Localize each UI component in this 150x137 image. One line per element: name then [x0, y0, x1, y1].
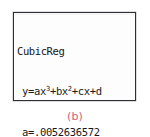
- model-suffix: +cx+d: [72, 85, 102, 97]
- calc-command-line: CubicReg: [17, 46, 133, 56]
- figure-root: CubicReg y=ax3+bx2+cx+d a=.0052636572 b=…: [0, 0, 150, 137]
- coefficient-a-label: a=: [22, 126, 34, 137]
- calculator-screen[interactable]: CubicReg y=ax3+bx2+cx+d a=.0052636572 b=…: [13, 12, 136, 101]
- calc-model-equation-line: y=ax3+bx2+cx+d: [22, 86, 133, 96]
- model-prefix: y=ax: [22, 85, 46, 97]
- calc-coefficient-a-line: a=.0052636572: [22, 127, 133, 137]
- figure-caption: (b): [0, 110, 150, 123]
- coefficient-a-value: .0052636572: [34, 126, 100, 137]
- model-mid: +bx: [50, 85, 68, 97]
